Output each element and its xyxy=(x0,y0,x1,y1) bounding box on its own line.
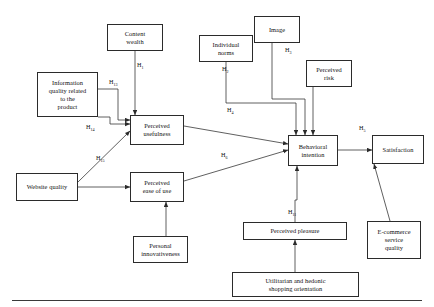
node-behavioral-intention[interactable]: Behavioral intention xyxy=(288,135,338,166)
hypothesis-label-h5: H5 xyxy=(359,125,366,133)
node-perceived-usefulness-label: Perceived usefulness xyxy=(143,122,170,138)
node-content-wealth-label: Content wealth xyxy=(125,30,146,46)
hypothesis-label-h15: H15 xyxy=(96,155,105,163)
edge-h4 xyxy=(184,126,288,144)
node-utilitarian-hedonic-label: Utilitarian and hedonic shopping orienta… xyxy=(265,277,325,293)
node-ecommerce-service-quality-label: E-commerce service quality xyxy=(377,228,410,252)
edge-ecommerce-to-satisfaction xyxy=(374,164,390,221)
hypothesis-label-h13: H13 xyxy=(109,79,118,87)
node-website-quality-label: Website quality xyxy=(27,183,68,191)
node-personal-innovativeness[interactable]: Personal innovativeness xyxy=(133,236,188,263)
hypothesis-label-h4: H4 xyxy=(227,107,234,115)
hypothesis-label-h3: H3 xyxy=(285,47,292,55)
bottom-divider xyxy=(12,300,422,301)
node-individual-norms[interactable]: Individual norms xyxy=(199,35,253,62)
node-perceived-usefulness[interactable]: Perceived usefulness xyxy=(130,115,184,145)
node-perceived-risk-label: Perceived risk xyxy=(316,66,342,82)
node-image-label: Image xyxy=(269,26,285,34)
node-perceived-ease-of-use[interactable]: Perceived ease of use xyxy=(130,172,184,202)
edge-h6 xyxy=(184,150,288,181)
hypothesis-label-h11: H11 xyxy=(288,209,296,217)
node-personal-innovativeness-label: Personal innovativeness xyxy=(141,242,180,258)
node-utilitarian-hedonic[interactable]: Utilitarian and hedonic shopping orienta… xyxy=(232,272,359,297)
edge-h2 xyxy=(226,62,296,135)
node-satisfaction[interactable]: Satisfaction xyxy=(372,135,424,164)
node-satisfaction-label: Satisfaction xyxy=(383,146,414,154)
edge-h13 xyxy=(98,89,130,120)
node-information-quality-label: Information quality related to the produ… xyxy=(49,79,86,111)
edge-h14 xyxy=(98,117,130,124)
hypothesis-label-h14: H14 xyxy=(86,124,95,132)
node-image[interactable]: Image xyxy=(254,16,300,43)
node-behavioral-intention-label: Behavioral intention xyxy=(299,143,328,159)
hypothesis-label-h1: H1 xyxy=(137,62,144,70)
node-perceived-pleasure[interactable]: Perceived pleasure xyxy=(243,222,347,240)
node-perceived-pleasure-label: Perceived pleasure xyxy=(271,227,320,235)
node-individual-norms-label: Individual norms xyxy=(213,41,240,57)
hypothesis-label-h6: H6 xyxy=(221,152,228,160)
node-website-quality[interactable]: Website quality xyxy=(16,173,78,201)
hypothesis-label-h2: H2 xyxy=(222,66,229,74)
node-information-quality[interactable]: Information quality related to the produ… xyxy=(37,72,98,117)
node-perceived-risk[interactable]: Perceived risk xyxy=(306,60,352,87)
node-ecommerce-service-quality[interactable]: E-commerce service quality xyxy=(367,221,421,259)
node-perceived-ease-of-use-label: Perceived ease of use xyxy=(143,179,172,195)
figure-canvas: Content wealth Information quality relat… xyxy=(0,0,434,307)
edge-h3 xyxy=(272,43,305,135)
node-content-wealth[interactable]: Content wealth xyxy=(107,24,163,51)
